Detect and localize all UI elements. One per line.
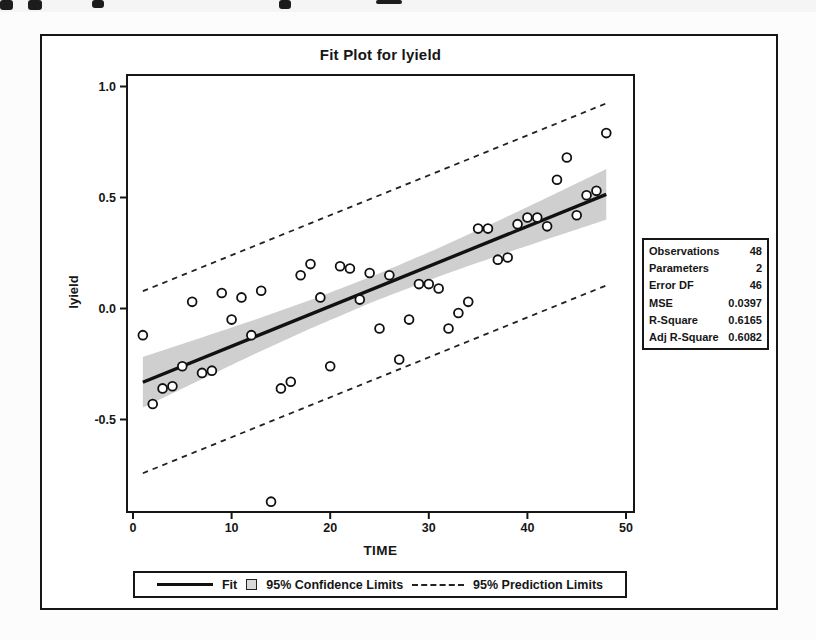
x-tick-label: 0	[130, 521, 137, 535]
data-point	[178, 362, 187, 371]
stat-row: Observations48	[649, 243, 762, 259]
data-point	[572, 211, 581, 220]
y-tick-label: 0.0	[99, 302, 116, 316]
fit-line-swatch	[157, 583, 213, 586]
data-point	[562, 153, 571, 162]
confidence-limits-swatch	[246, 579, 257, 590]
data-point	[602, 129, 611, 138]
data-point	[346, 264, 355, 273]
y-tick-label: -0.5	[94, 413, 116, 427]
data-point	[277, 384, 286, 393]
data-point	[375, 324, 384, 333]
data-point	[543, 222, 552, 231]
data-point	[474, 224, 483, 233]
data-point	[217, 289, 226, 298]
data-point	[148, 400, 157, 409]
legend-label-prediction: 95% Prediction Limits	[473, 578, 603, 592]
x-tick-label: 50	[619, 521, 633, 535]
data-point	[267, 497, 276, 506]
x-tick-label: 40	[520, 521, 534, 535]
data-point	[513, 220, 522, 229]
data-point	[405, 315, 414, 324]
data-point	[247, 331, 256, 340]
data-point	[286, 377, 295, 386]
x-tick-label: 30	[422, 521, 436, 535]
data-point	[168, 382, 177, 391]
prediction-limit-lower	[143, 285, 606, 473]
data-point	[503, 253, 512, 262]
data-point	[484, 224, 493, 233]
data-point	[336, 262, 345, 271]
data-point	[385, 271, 394, 280]
data-point	[444, 324, 453, 333]
y-tick-label: 0.5	[99, 191, 116, 205]
data-point	[434, 284, 443, 293]
data-point	[198, 368, 207, 377]
stat-row: Error DF46	[649, 277, 762, 293]
chart-title: Fit Plot for lyield	[127, 46, 634, 63]
stat-row: Adj R-Square0.6082	[649, 329, 762, 345]
data-point	[553, 175, 562, 184]
data-point	[227, 315, 236, 324]
data-point	[306, 260, 315, 269]
data-point	[257, 286, 266, 295]
x-axis-label: TIME	[127, 543, 634, 558]
stat-row: MSE0.0397	[649, 295, 762, 311]
data-point	[493, 255, 502, 264]
data-point	[237, 293, 246, 302]
y-tick-label: 1.0	[99, 80, 116, 94]
data-point	[424, 280, 433, 289]
data-point	[415, 280, 424, 289]
prediction-limits-swatch	[412, 584, 464, 586]
legend-label-confidence: 95% Confidence Limits	[266, 578, 403, 592]
stat-row: R-Square0.6165	[649, 312, 762, 328]
scanned-page: 010203040501.00.50.0-0.5 Fit Plot for ly…	[0, 0, 816, 640]
data-point	[533, 213, 542, 222]
data-point	[454, 309, 463, 318]
data-point	[296, 271, 305, 280]
stats-box: Observations48Parameters2Error DF46MSE0.…	[642, 238, 769, 350]
data-point	[138, 331, 147, 340]
data-point	[592, 186, 601, 195]
data-point	[523, 213, 532, 222]
data-point	[207, 366, 216, 375]
x-tick-label: 20	[323, 521, 337, 535]
prediction-limit-upper	[143, 103, 606, 291]
data-point	[326, 362, 335, 371]
x-tick-label: 10	[225, 521, 239, 535]
data-point	[365, 269, 374, 278]
data-point	[464, 297, 473, 306]
y-axis-label: lyield	[64, 249, 82, 335]
legend-box: Fit 95% Confidence Limits 95% Prediction…	[133, 571, 627, 598]
data-point	[355, 295, 364, 304]
data-point	[316, 293, 325, 302]
data-point	[188, 297, 197, 306]
data-point	[395, 355, 404, 364]
data-point	[158, 384, 167, 393]
legend-label-fit: Fit	[222, 578, 237, 592]
data-point	[582, 191, 591, 200]
stat-row: Parameters2	[649, 260, 762, 276]
